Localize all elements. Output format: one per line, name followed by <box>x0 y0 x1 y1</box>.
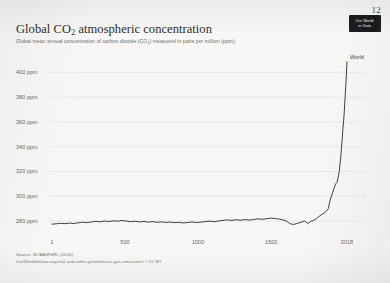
license-note[interactable]: OurWorldInData.org/co2-and-other-greenho… <box>16 259 162 264</box>
y-axis-tick-label: 340 ppm <box>16 144 38 150</box>
gridlines <box>49 72 366 221</box>
x-axis-tick-label: 1500 <box>265 239 277 245</box>
y-axis-tick-label: 320 ppm <box>16 168 38 174</box>
data-series-group <box>52 62 347 225</box>
x-axis-tick-label: 1000 <box>192 239 204 245</box>
chart-plot-area: 280 ppm300 ppm320 ppm340 ppm360 ppm380 p… <box>0 0 390 283</box>
data-line-world[interactable] <box>52 62 347 225</box>
y-axis-tick-label: 280 ppm <box>16 218 38 224</box>
x-axis-tick-label: 2018 <box>341 239 353 245</box>
x-axis-tick-label: 500 <box>120 239 129 245</box>
y-axis-tick-label: 400 ppm <box>16 69 38 75</box>
y-axis-tick-label: 380 ppm <box>16 94 38 100</box>
y-axis-tick-label: 300 ppm <box>16 193 38 199</box>
series-label-world: World <box>350 54 364 60</box>
y-axis-tick-label: 360 ppm <box>16 119 38 125</box>
x-axis-tick-label: 1 <box>50 239 53 245</box>
source-note: Source: NOAA/ESRL (2016) <box>16 252 73 257</box>
